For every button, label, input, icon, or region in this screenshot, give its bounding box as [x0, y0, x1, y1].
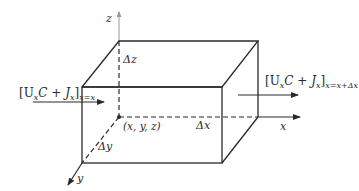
control-volume-diagram: z x y (x, y, z) Δz Δx Δy [UxC + Jx]x=x […: [0, 0, 359, 191]
y-axis-label: y: [76, 172, 84, 185]
flux-out-label: [UxC + Jx]x=x+Δx: [265, 74, 358, 90]
origin-label: (x, y, z): [123, 120, 161, 132]
delta-y-label: Δy: [97, 140, 113, 153]
x-axis-label: x: [280, 120, 287, 133]
z-axis-label: z: [105, 12, 112, 25]
flux-in-label: [UxC + Jx]x=x: [19, 86, 95, 102]
origin-point: [117, 115, 121, 119]
delta-x-label: Δx: [195, 119, 211, 132]
delta-z-label: Δz: [122, 53, 137, 66]
